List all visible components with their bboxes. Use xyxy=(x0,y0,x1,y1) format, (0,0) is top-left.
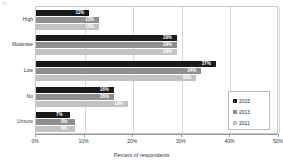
category-tick-label: Moderate xyxy=(0,41,33,47)
bar-group: High11%13%13% xyxy=(36,10,277,30)
bar-value-label: 7% xyxy=(56,111,62,118)
bar-value-label: 33% xyxy=(182,74,191,81)
legend-label: 2011 xyxy=(239,120,250,126)
x-tick-label: 30% xyxy=(176,138,186,144)
bar-value-label: 19% xyxy=(114,100,123,107)
bar-value-label: 16% xyxy=(100,86,109,93)
bar[interactable] xyxy=(36,119,75,125)
x-tick-mark xyxy=(132,134,133,137)
category-tick-label: Unsure xyxy=(0,118,33,124)
legend: 2015 2013 2011 xyxy=(228,91,270,130)
bar-row: 34% xyxy=(36,68,277,74)
bar-value-label: 8% xyxy=(61,125,67,132)
category-tick-label: High xyxy=(0,16,33,22)
bar-value-label: 29% xyxy=(163,48,172,55)
bar-value-label: 13% xyxy=(85,23,94,30)
x-tick-mark xyxy=(35,134,36,137)
bar[interactable] xyxy=(36,68,201,74)
bar-value-label: 29% xyxy=(163,41,172,48)
bar-value-label: 8% xyxy=(61,118,67,125)
bar-group: Low37%34%33% xyxy=(36,61,277,81)
x-tick-label: 40% xyxy=(224,138,234,144)
bar[interactable] xyxy=(36,35,177,41)
legend-swatch-icon xyxy=(233,121,237,125)
bar-row: 33% xyxy=(36,75,277,81)
x-tick-label: 20% xyxy=(127,138,137,144)
bar[interactable] xyxy=(36,126,75,132)
x-tick-mark xyxy=(229,134,230,137)
x-axis: 0%10%20%30%40%50% xyxy=(35,134,278,135)
x-axis-title: Percent of respondents xyxy=(0,152,283,158)
bar-value-label: 34% xyxy=(187,67,196,74)
bar-row: 13% xyxy=(36,24,277,30)
bar[interactable] xyxy=(36,49,177,55)
x-tick-mark xyxy=(84,134,85,137)
bar-value-label: 16% xyxy=(100,93,109,100)
bar-value-label: 13% xyxy=(85,16,94,23)
x-tick-label: 10% xyxy=(79,138,89,144)
bar-row: 29% xyxy=(36,35,277,41)
legend-item-2013[interactable]: 2013 xyxy=(233,106,269,117)
x-tick-label: 50% xyxy=(273,138,283,144)
legend-label: 2013 xyxy=(239,109,250,115)
bar-value-label: 11% xyxy=(75,9,84,16)
bar-row: 37% xyxy=(36,61,277,67)
category-tick-label: No xyxy=(0,93,33,99)
bar-row: 29% xyxy=(36,42,277,48)
bar-group: Moderate29%29%29% xyxy=(36,35,277,55)
legend-swatch-icon xyxy=(233,110,237,114)
category-tick-label: Low xyxy=(0,67,33,73)
bar-chart: High11%13%13%Moderate29%29%29%Low37%34%3… xyxy=(0,0,283,166)
legend-label: 2015 xyxy=(239,98,250,104)
legend-swatch-icon xyxy=(233,99,237,103)
x-tick-mark xyxy=(278,134,279,137)
bar-value-label: 29% xyxy=(163,34,172,41)
legend-item-2011[interactable]: 2011 xyxy=(233,117,269,128)
bar[interactable] xyxy=(36,42,177,48)
gridline xyxy=(279,7,280,133)
x-tick-mark xyxy=(181,134,182,137)
bar-row: 13% xyxy=(36,17,277,23)
x-tick-label: 0% xyxy=(31,138,38,144)
bar-value-label: 37% xyxy=(202,60,211,67)
legend-item-2015[interactable]: 2015 xyxy=(233,95,269,106)
bar-row: 11% xyxy=(36,10,277,16)
bar[interactable] xyxy=(36,75,196,81)
bar-row: 29% xyxy=(36,49,277,55)
corner-artifact xyxy=(2,1,7,5)
